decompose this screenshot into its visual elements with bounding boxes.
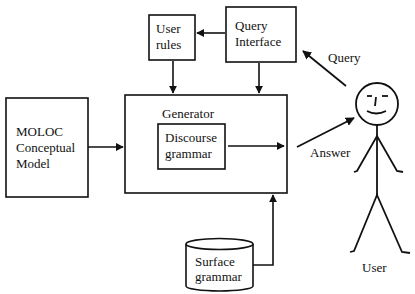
user-smile [367, 111, 386, 114]
query-interface-label-1: Query [235, 18, 268, 33]
answer-edge-label: Answer [310, 145, 351, 160]
user-head-icon [356, 83, 398, 125]
user-rules-label-1: User [156, 21, 181, 36]
surface-grammar-cylinder: Surface grammar [186, 239, 253, 292]
user-rules-label-2: rules [156, 37, 181, 52]
user-rules-box: User rules [149, 15, 195, 60]
user-nose [375, 97, 376, 106]
surface-grammar-label-2: grammar [195, 269, 243, 284]
moloc-label-2: Conceptual [16, 140, 76, 155]
query-edge-label: Query [328, 50, 361, 65]
moloc-label-3: Model [16, 156, 50, 171]
arrow-answer-to-user [297, 118, 354, 147]
discourse-grammar-box: Discourse grammar [158, 124, 225, 169]
architecture-diagram: User rules Query Interface MOLOC Concept… [0, 0, 415, 294]
generator-box: Generator Discourse grammar [125, 95, 287, 193]
discourse-grammar-label-2: grammar [165, 146, 213, 161]
generator-label: Generator [162, 106, 215, 121]
arrow-surface-grammar-to-generator [253, 195, 273, 265]
user-legs [350, 195, 410, 253]
discourse-grammar-label-1: Discourse [165, 130, 217, 145]
user-actor-label: User [362, 260, 387, 275]
user-stick-figure [350, 83, 410, 253]
user-arms [354, 136, 403, 172]
query-interface-box: Query Interface [226, 7, 296, 62]
moloc-conceptual-model-box: MOLOC Conceptual Model [6, 98, 88, 197]
query-interface-label-2: Interface [235, 34, 281, 49]
moloc-label-1: MOLOC [16, 124, 63, 139]
surface-grammar-label-1: Surface [195, 254, 235, 269]
